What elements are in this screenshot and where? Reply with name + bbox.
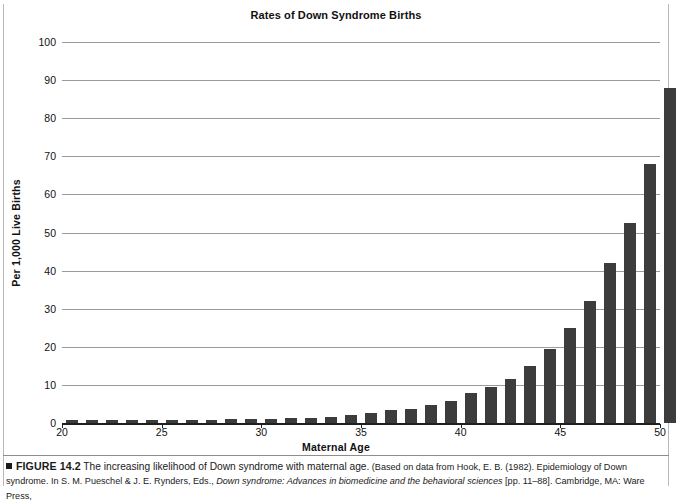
y-tick-label-50: 50 (0, 227, 56, 239)
bar-age-20 (66, 420, 78, 423)
x-tick-label-20: 20 (56, 426, 68, 438)
figure-number: FIGURE 14.2 (16, 460, 81, 472)
y-tick-label-40: 40 (0, 265, 56, 277)
bar-age-33 (325, 417, 337, 423)
x-tick-label-30: 30 (255, 426, 267, 438)
bar-age-46 (584, 301, 596, 423)
x-tick-label-35: 35 (355, 426, 367, 438)
bar-age-40 (465, 393, 477, 423)
bar-age-21 (86, 420, 98, 423)
y-tick-label-90: 90 (0, 74, 56, 86)
x-tick-label-50: 50 (654, 426, 666, 438)
y-tick-label-60: 60 (0, 188, 56, 200)
bar-age-31 (285, 418, 297, 423)
y-tick-label-0: 0 (0, 417, 56, 429)
x-tick-label-40: 40 (455, 426, 467, 438)
bar-age-35 (365, 413, 377, 423)
caption-bullet-icon (6, 463, 12, 469)
bar-age-39 (445, 401, 457, 423)
y-tick-label-10: 10 (0, 379, 56, 391)
y-tick-label-30: 30 (0, 303, 56, 315)
y-tick-label-100: 100 (0, 36, 56, 48)
chart-title: Rates of Down Syndrome Births (0, 9, 672, 21)
bar-age-36 (385, 410, 397, 423)
x-tick-label-25: 25 (156, 426, 168, 438)
bar-age-28 (225, 419, 237, 423)
bar-age-23 (126, 420, 138, 423)
caption-lead-text: The increasing likelihood of Down syndro… (83, 461, 369, 472)
caption-divider (3, 455, 669, 456)
bar-age-50 (664, 88, 676, 423)
y-tick-label-80: 80 (0, 112, 56, 124)
bar-age-44 (544, 349, 556, 423)
bar-age-25 (166, 420, 178, 423)
bar-age-42 (505, 379, 517, 423)
bar-age-43 (524, 366, 536, 423)
x-tick-label-45: 45 (554, 426, 566, 438)
bar-age-41 (485, 387, 497, 423)
bar-age-34 (345, 415, 357, 423)
x-axis-title: Maternal Age (0, 441, 672, 453)
bar-age-38 (425, 405, 437, 423)
bar-age-32 (305, 418, 317, 423)
bar-age-47 (604, 263, 616, 423)
x-axis: 20253035404550 (62, 424, 660, 440)
bar-age-26 (186, 420, 198, 423)
bar-series (62, 42, 660, 423)
bar-age-48 (624, 223, 636, 423)
bar-age-27 (206, 420, 218, 423)
bar-age-49 (644, 164, 656, 423)
caption-source-booktitle: Down syndrome: Advances in biomedicine a… (216, 476, 502, 486)
y-tick-label-70: 70 (0, 150, 56, 162)
bar-age-37 (405, 409, 417, 423)
bar-age-24 (146, 420, 158, 423)
bar-age-22 (106, 420, 118, 423)
bar-age-29 (245, 419, 257, 423)
bar-age-45 (564, 328, 576, 423)
y-tick-label-20: 20 (0, 341, 56, 353)
figure-caption: FIGURE 14.2 The increasing likelihood of… (6, 459, 668, 503)
plot-area: 0102030405060708090100 (62, 42, 660, 423)
bar-age-30 (265, 419, 277, 423)
